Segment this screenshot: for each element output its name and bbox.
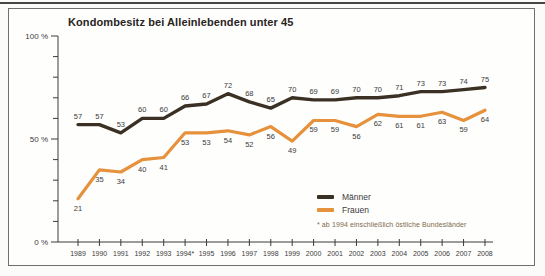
svg-text:54: 54 bbox=[224, 136, 232, 145]
svg-text:1995: 1995 bbox=[199, 250, 215, 257]
svg-text:1990: 1990 bbox=[92, 250, 108, 257]
svg-text:70: 70 bbox=[288, 85, 296, 94]
svg-text:59: 59 bbox=[331, 125, 339, 134]
svg-text:59: 59 bbox=[309, 125, 317, 134]
legend-label-maenner: Männer bbox=[342, 192, 371, 202]
svg-text:60: 60 bbox=[138, 105, 146, 114]
svg-text:1992: 1992 bbox=[134, 250, 150, 257]
svg-text:53: 53 bbox=[181, 138, 189, 147]
legend-swatch-maenner-line bbox=[317, 195, 334, 199]
svg-text:1996: 1996 bbox=[220, 250, 236, 257]
svg-text:2008: 2008 bbox=[477, 250, 493, 257]
svg-text:63: 63 bbox=[438, 117, 446, 126]
svg-text:21: 21 bbox=[74, 204, 82, 213]
svg-text:71: 71 bbox=[395, 83, 403, 92]
svg-text:75: 75 bbox=[481, 75, 489, 84]
svg-text:64: 64 bbox=[481, 115, 489, 124]
svg-text:66: 66 bbox=[181, 93, 189, 102]
chart-legend: Männer Frauen bbox=[317, 190, 371, 216]
svg-text:72: 72 bbox=[224, 81, 232, 90]
svg-text:2000: 2000 bbox=[306, 250, 322, 257]
svg-text:53: 53 bbox=[117, 120, 125, 129]
svg-text:2006: 2006 bbox=[434, 250, 450, 257]
svg-text:56: 56 bbox=[267, 132, 275, 141]
svg-text:2004: 2004 bbox=[392, 250, 408, 257]
svg-text:62: 62 bbox=[374, 119, 382, 128]
svg-text:2005: 2005 bbox=[413, 250, 429, 257]
svg-text:1998: 1998 bbox=[263, 250, 279, 257]
svg-text:59: 59 bbox=[459, 125, 467, 134]
svg-text:61: 61 bbox=[395, 121, 403, 130]
svg-text:67: 67 bbox=[202, 91, 210, 100]
svg-text:2002: 2002 bbox=[349, 250, 365, 257]
svg-text:70: 70 bbox=[374, 85, 382, 94]
svg-text:0 %: 0 % bbox=[34, 238, 48, 247]
legend-swatch-frauen-line bbox=[317, 208, 334, 212]
svg-text:52: 52 bbox=[245, 140, 253, 149]
svg-text:1997: 1997 bbox=[242, 250, 258, 257]
legend-item-frauen: Frauen bbox=[317, 203, 371, 216]
svg-text:50 %: 50 % bbox=[30, 135, 48, 144]
svg-text:40: 40 bbox=[138, 165, 146, 174]
svg-text:65: 65 bbox=[267, 95, 275, 104]
svg-text:60: 60 bbox=[160, 105, 168, 114]
svg-text:69: 69 bbox=[331, 87, 339, 96]
svg-text:57: 57 bbox=[74, 112, 82, 121]
figure-page: Kondombesitz bei Alleinlebenden unter 45… bbox=[0, 0, 545, 276]
svg-text:34: 34 bbox=[117, 177, 125, 186]
legend-item-maenner: Männer bbox=[317, 190, 371, 203]
svg-text:1991: 1991 bbox=[113, 250, 129, 257]
svg-text:2003: 2003 bbox=[370, 250, 386, 257]
svg-text:73: 73 bbox=[438, 79, 446, 88]
svg-text:1993: 1993 bbox=[156, 250, 172, 257]
svg-text:41: 41 bbox=[160, 163, 168, 172]
svg-text:1989: 1989 bbox=[70, 250, 86, 257]
svg-text:100 %: 100 % bbox=[25, 32, 48, 41]
svg-text:61: 61 bbox=[417, 121, 425, 130]
svg-text:56: 56 bbox=[352, 132, 360, 141]
svg-text:57: 57 bbox=[95, 112, 103, 121]
svg-text:69: 69 bbox=[309, 87, 317, 96]
svg-text:74: 74 bbox=[459, 77, 467, 86]
svg-text:68: 68 bbox=[245, 89, 253, 98]
svg-text:2007: 2007 bbox=[456, 250, 472, 257]
svg-text:1999: 1999 bbox=[284, 250, 300, 257]
svg-text:49: 49 bbox=[288, 146, 296, 155]
svg-text:35: 35 bbox=[95, 175, 103, 184]
svg-text:1994*: 1994* bbox=[176, 250, 195, 257]
chart-footnote: * ab 1994 einschließlich östliche Bundes… bbox=[317, 221, 466, 228]
svg-text:70: 70 bbox=[352, 85, 360, 94]
svg-text:53: 53 bbox=[202, 138, 210, 147]
svg-text:2001: 2001 bbox=[327, 250, 343, 257]
chart-plot: 0 %50 %100 %198919901991199219931994*199… bbox=[0, 0, 545, 276]
legend-label-frauen: Frauen bbox=[342, 205, 369, 215]
svg-text:73: 73 bbox=[417, 79, 425, 88]
